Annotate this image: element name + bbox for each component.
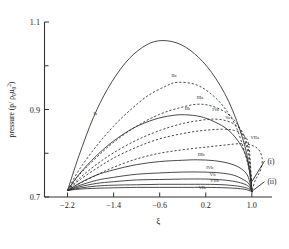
curve-label-iiia: IIIa: [197, 95, 204, 100]
curve-label-va: Va: [225, 115, 230, 120]
curve-label-viia: VIIa: [251, 135, 259, 140]
x-tick-label-2: −0.6: [152, 201, 167, 210]
curve-va: [68, 129, 252, 192]
curve-label-iib: IIb: [185, 106, 191, 111]
y-tick-label-0: 0.7: [30, 193, 40, 202]
curve-label-iva: IVa: [212, 107, 218, 112]
x-tick-label-4: 1.0: [247, 201, 257, 210]
curve-label-vib: VIb: [199, 185, 207, 190]
x-tick-label-0: −2.2: [60, 201, 75, 210]
axis-titles-layer: ξpressure (p/ ρ0u02): [6, 81, 160, 226]
note-i-leader-line: [252, 161, 265, 182]
curve-label-vb: Vb: [210, 172, 216, 177]
annotations-layer: (i)(ii): [252, 157, 277, 191]
curve-label-iiib: IIIb: [198, 152, 206, 157]
curve-ivb: [68, 172, 252, 192]
x-tick-label-1: −1.4: [106, 201, 121, 210]
curve-vib: [68, 187, 252, 191]
y-tick-label-1: 0.9: [30, 106, 40, 115]
y-tick-label-2: 1.1: [30, 18, 40, 27]
y-axis-title: pressure (p/ ρ0u02): [6, 81, 17, 137]
curve-label-iia: IIa: [172, 73, 177, 78]
note-ii-leader-line: [252, 182, 264, 191]
x-tick-label-3: 0.2: [201, 201, 211, 210]
note-ii-label: (ii): [267, 177, 277, 186]
ticks-layer: [45, 22, 252, 197]
figure-container: −2.2−1.4−0.60.21.00.70.91.1 IaIIaIIIaIIb…: [0, 0, 289, 249]
curve-label-ia: Ia: [93, 111, 97, 116]
curve-label-ivb: IVb: [206, 165, 214, 170]
curves-layer: [68, 41, 263, 192]
note-i-label: (i): [267, 157, 275, 166]
pressure-vs-xi-chart: −2.2−1.4−0.60.21.00.70.91.1 IaIIaIIIaIIb…: [0, 0, 289, 249]
x-axis-title: ξ: [156, 216, 160, 226]
curve-label-viib: VIIb: [210, 178, 219, 183]
